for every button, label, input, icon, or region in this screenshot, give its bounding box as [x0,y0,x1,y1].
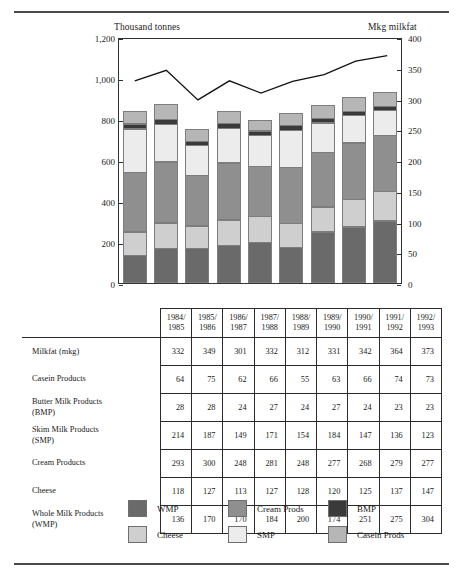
table-cell: 373 [410,338,441,366]
y-axis-tick-mark-right [397,101,401,102]
table-row: Butter Milk Products(BMP)282824272427242… [22,394,442,422]
legend-label: BMP [357,504,376,514]
table-cell: 66 [254,366,285,394]
table-cell: 268 [348,450,379,478]
y-axis-tick-mark-left [119,244,123,245]
legend-item-cream-prods: Cream Prods [228,500,328,517]
table-cell: 75 [192,366,223,394]
table-cell: 73 [410,366,441,394]
y-axis-tick-mark-left [119,121,123,122]
table-cell: 277 [410,450,441,478]
legend-swatch [128,500,147,517]
table-cell: 136 [379,422,410,450]
table-cell: 23 [410,394,441,422]
table-cell: 23 [379,394,410,422]
table-row: Cream Products29330024828124827726827927… [22,450,442,478]
table-row: Skim Milk Products(SMP)21418714917115418… [22,422,442,450]
table-cell: 277 [317,450,348,478]
y-axis-tick-label-right: 300 [408,96,422,106]
y-axis-tick-mark-left [119,39,123,40]
table-cell: 149 [223,422,254,450]
y-axis-tick-mark-right [397,131,401,132]
y-axis-tick-mark-right [397,162,401,163]
table-cell: 27 [254,394,285,422]
table-row: Casein Products647562665563667473 [22,366,442,394]
table-cell: 332 [254,338,285,366]
y-axis-tick-mark-right [397,285,401,286]
y-axis-tick-label-left: 200 [102,239,116,249]
table-header-row: 1984/1985 1985/1986 1986/1987 1987/1988 … [22,309,442,338]
table-cell: 187 [192,422,223,450]
y-axis-tick-label-left: 600 [102,157,116,167]
bottom-rule [14,563,449,565]
legend-swatch [228,500,247,517]
y-axis-tick-mark-right [397,70,401,71]
table-cell: 300 [192,450,223,478]
table-cell: 55 [285,366,316,394]
row-label: Casein Products [22,366,161,394]
table-cell: 28 [192,394,223,422]
table-cell: 312 [285,338,316,366]
milkfat-line-path [135,56,387,100]
table-cell: 154 [285,422,316,450]
y-axis-tick-mark-right [397,224,401,225]
y-axis-tick-label-left: 400 [102,198,116,208]
column-header-6: 1990/1991 [348,309,379,338]
column-header-8: 1992/1993 [410,309,441,338]
y-axis-tick-label-right: 50 [408,249,417,259]
table-cell: 24 [348,394,379,422]
table-cell: 293 [161,450,192,478]
table-cell: 123 [410,422,441,450]
table-cell: 74 [379,366,410,394]
table-cell: 214 [161,422,192,450]
table-cell: 64 [161,366,192,394]
y-axis-tick-label-left: 1,200 [95,34,115,44]
row-label: Milkfat (mkg) [22,338,161,366]
y-axis-tick-label-right: 400 [408,34,422,44]
row-label: Skim Milk Products(SMP) [22,422,161,450]
legend-swatch [228,526,247,543]
legend-item-bmp: BMP [328,500,428,517]
table-cell: 279 [379,450,410,478]
y-axis-tick-label-left: 1,000 [95,75,115,85]
legend-item-wmp: WMP [128,500,228,517]
y-axis-tick-label-right: 0 [408,280,413,290]
column-header-4: 1988/1989 [285,309,316,338]
table-cell: 63 [317,366,348,394]
table-cell: 184 [317,422,348,450]
milkfat-line-series [119,39,403,285]
table-cell: 24 [285,394,316,422]
y-axis-tick-label-right: 350 [408,65,422,75]
y-axis-tick-mark-right [397,39,401,40]
legend-item-cheese: Cheese [128,526,228,543]
chart-legend: WMPCream ProdsBMPCheeseSMPCasein Prods [128,500,428,543]
table-cell: 349 [192,338,223,366]
table-cell: 27 [317,394,348,422]
legend-label: SMP [257,530,275,540]
column-header-5: 1989/1990 [317,309,348,338]
chart-area: Thousand tonnes Mkg milkfat 020040060080… [0,22,463,302]
legend-swatch [128,526,147,543]
y-axis-tick-label-left: 800 [102,116,116,126]
table-cell: 364 [379,338,410,366]
y-axis-tick-label-right: 250 [408,126,422,136]
table-cell: 331 [317,338,348,366]
legend-label: Cream Prods [257,504,304,514]
table-cell: 281 [254,450,285,478]
row-label: Butter Milk Products(BMP) [22,394,161,422]
y-axis-title-right: Mkg milkfat [368,22,417,32]
table-cell: 171 [254,422,285,450]
table-cell: 62 [223,366,254,394]
y-axis-tick-mark-left [119,203,123,204]
legend-label: Cheese [157,530,183,540]
column-header-1: 1985/1986 [192,309,223,338]
y-axis-tick-label-left: 0 [111,280,116,290]
table-corner-cell [22,309,161,338]
y-axis-tick-label-right: 200 [408,157,422,167]
legend-swatch [328,500,347,517]
y-axis-tick-mark-right [397,193,401,194]
y-axis-tick-label-right: 100 [408,219,422,229]
table-cell: 147 [348,422,379,450]
y-axis-title-left: Thousand tonnes [114,22,180,32]
y-axis-tick-mark-right [397,254,401,255]
